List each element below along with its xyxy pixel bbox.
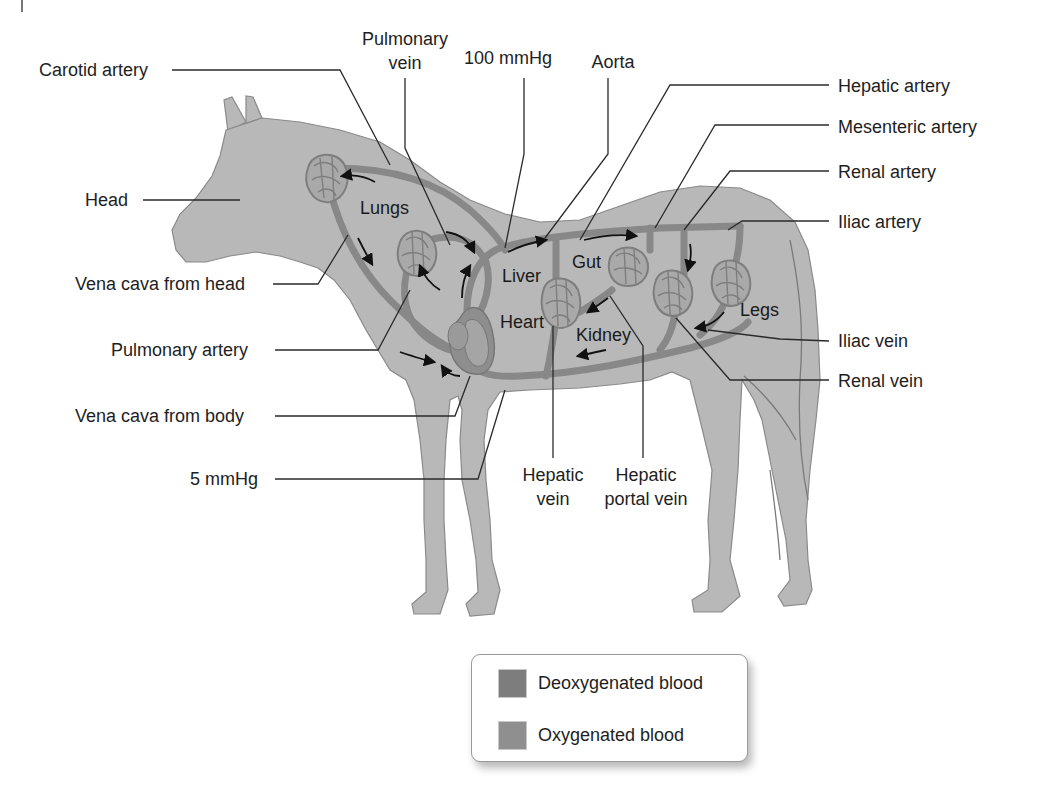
organ-label-gut: Gut — [572, 252, 601, 272]
left-labels: Carotid artery Head Vena cava from head … — [39, 60, 258, 489]
organ-label-legs: Legs — [740, 300, 779, 320]
organ-label-lungs: Lungs — [360, 198, 409, 218]
legend-label-oxygenated: Oxygenated blood — [538, 725, 684, 746]
legend-swatch-deoxygenated — [498, 669, 527, 698]
right-labels: Hepatic artery Mesenteric artery Renal a… — [838, 76, 977, 391]
legend-item-deoxygenated: Deoxygenated blood — [498, 669, 703, 698]
label-iliac-artery: Iliac artery — [838, 212, 921, 232]
label-iliac-vein: Iliac vein — [838, 331, 908, 351]
legend-swatch-oxygenated — [498, 721, 527, 750]
label-hepatic-portal-vein-line1: Hepatic — [615, 465, 676, 485]
label-head: Head — [85, 190, 128, 210]
legend: Deoxygenated blood Oxygenated blood — [471, 654, 748, 762]
label-renal-vein: Renal vein — [838, 371, 923, 391]
legend-label-deoxygenated: Deoxygenated blood — [538, 673, 703, 694]
organ-label-heart: Heart — [500, 312, 544, 332]
label-mesenteric-artery: Mesenteric artery — [838, 117, 977, 137]
top-labels: Pulmonary vein 100 mmHg Aorta — [362, 29, 636, 73]
label-pressure-100mmhg: 100 mmHg — [464, 48, 552, 68]
label-vena-cava-head: Vena cava from head — [75, 274, 245, 294]
organ-label-kidney: Kidney — [576, 325, 631, 345]
legend-item-oxygenated: Oxygenated blood — [498, 721, 684, 750]
organ-label-liver: Liver — [502, 266, 541, 286]
label-hepatic-artery: Hepatic artery — [838, 76, 950, 96]
label-hepatic-vein-line2: vein — [536, 489, 569, 509]
label-hepatic-vein-line1: Hepatic — [522, 465, 583, 485]
label-vena-cava-body: Vena cava from body — [75, 406, 244, 426]
horse-silhouette — [172, 96, 820, 616]
label-hepatic-portal-vein-line2: portal vein — [604, 489, 687, 509]
label-aorta: Aorta — [591, 52, 635, 72]
label-pulmonary-vein-line1: Pulmonary — [362, 29, 448, 49]
label-pulmonary-artery: Pulmonary artery — [111, 340, 248, 360]
label-renal-artery: Renal artery — [838, 162, 936, 182]
label-carotid-artery: Carotid artery — [39, 60, 148, 80]
label-pulmonary-vein-line2: vein — [388, 53, 421, 73]
bottom-labels: Hepatic vein Hepatic portal vein — [522, 465, 687, 509]
label-pressure-5mmhg: 5 mmHg — [190, 469, 258, 489]
